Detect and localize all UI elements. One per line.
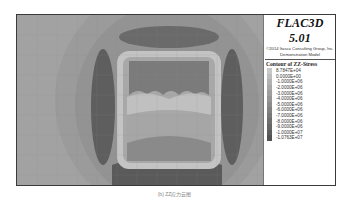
contour-plot: [17, 15, 263, 185]
copyright-text: ©2014 Itasca Consulting Group, Inc.: [264, 46, 336, 51]
model-subtitle: Demonstration Model: [264, 52, 336, 57]
legend-label: 8.7847E+04: [276, 68, 301, 73]
legend-label: -1.0000E+07: [276, 130, 302, 135]
app-title: FLAC3D 5.01: [264, 16, 336, 46]
legend-label: -7.0000E+06: [276, 113, 302, 118]
legend-label: -3.0000E+06: [276, 91, 302, 96]
legend-label: -1.0763E+07: [276, 135, 302, 140]
legend-divider: [265, 59, 335, 60]
legend-label: -1.0000E+06: [276, 79, 302, 84]
legend-panel: FLAC3D 5.01 ©2014 Itasca Consulting Grou…: [263, 15, 336, 185]
legend-label: -2.0000E+06: [276, 85, 302, 90]
legend-label: -6.0000E+06: [276, 107, 302, 112]
color-scale: 8.7847E+04 0.0000E+00 -1.0000E+06 -2.000…: [267, 68, 336, 141]
contour-graphic: [17, 15, 263, 185]
contour-title: Contour of ZZ-Stress: [266, 61, 336, 67]
legend-label: -4.0000E+06: [276, 96, 302, 101]
legend-row: -1.0763E+07: [267, 135, 336, 141]
legend-label: -5.0000E+06: [276, 102, 302, 107]
legend-label: 0.0000E+00: [276, 74, 301, 79]
color-swatch: [267, 135, 272, 141]
legend-label: -9.0000E+06: [276, 124, 302, 129]
legend-label: -8.0000E+06: [276, 119, 302, 124]
figure-caption: (b) ZZ应力云图: [0, 190, 349, 197]
plot-frame: FLAC3D 5.01 ©2014 Itasca Consulting Grou…: [16, 14, 336, 186]
